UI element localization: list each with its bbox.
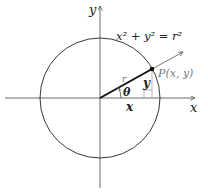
right-angle-marker [144,90,152,98]
point-p [150,67,155,72]
radius-label: r [122,74,127,84]
point-label: P(x, y) [157,67,193,80]
y-axis-label: y [88,2,97,17]
x-axis-label: x [190,100,198,115]
equation-label: x² + y² = r² [116,29,183,43]
angle-label: θ [123,86,131,99]
horizontal-leg-label: x [125,100,134,114]
vertical-leg-label: y [142,76,151,90]
polar-diagram: y x x² + y² = r² P(x, y) r θ y x [0,0,208,193]
